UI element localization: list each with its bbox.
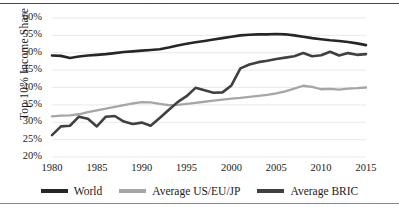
figure-bottom-rule — [0, 203, 399, 204]
y-axis-tick-label: 40% — [6, 81, 42, 92]
legend-label: Average US/EU/JP — [152, 185, 240, 197]
legend-item[interactable]: Average BRIC — [257, 185, 358, 197]
chart-legend: WorldAverage US/EU/JPAverage BRIC — [0, 182, 399, 200]
legend-swatch-icon — [41, 189, 68, 192]
x-axis-tick-label: 2000 — [209, 162, 253, 173]
y-axis-tick-label: 25% — [6, 133, 42, 144]
legend-swatch-icon — [119, 189, 146, 192]
legend-label: Average BRIC — [290, 185, 358, 197]
x-axis-tick-label: 2005 — [254, 162, 298, 173]
x-axis-tick-label: 2015 — [344, 162, 388, 173]
line-chart-svg — [0, 4, 399, 179]
y-axis-tick-label: 55% — [6, 28, 42, 39]
x-axis-tick-label: 1985 — [75, 162, 119, 173]
legend-swatch-icon — [257, 189, 284, 192]
y-axis-tick-label: 60% — [6, 11, 42, 22]
x-axis-tick-label: 1995 — [165, 162, 209, 173]
chart-figure: · · · Top 10% Income Share 20%25%30%35%4… — [0, 0, 399, 207]
y-axis-tick-label: 50% — [6, 46, 42, 57]
x-axis-tick-label: 1990 — [120, 162, 164, 173]
x-axis-tick-label: 1980 — [30, 162, 74, 173]
y-axis-tick-label: 20% — [6, 150, 42, 161]
plot-area: Top 10% Income Share 20%25%30%35%40%45%5… — [0, 4, 399, 179]
y-axis-tick-label: 45% — [6, 63, 42, 74]
y-axis-tick-label: 30% — [6, 115, 42, 126]
legend-label: World — [74, 185, 102, 197]
x-axis-tick-label: 2010 — [299, 162, 343, 173]
legend-item[interactable]: Average US/EU/JP — [119, 185, 240, 197]
legend-item[interactable]: World — [41, 185, 102, 197]
cropped-caption-remnant: · · · — [150, 0, 300, 3]
y-axis-tick-label: 35% — [6, 98, 42, 109]
